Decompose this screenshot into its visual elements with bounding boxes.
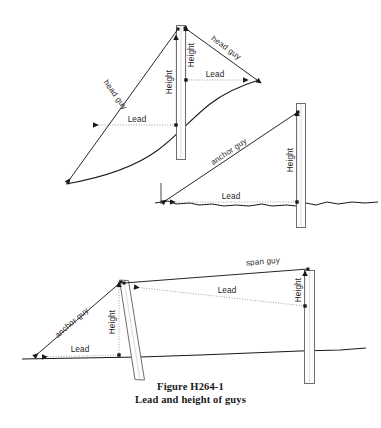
bottom-panel-group: anchor guy span guy Height Height Lead L… bbox=[22, 256, 366, 384]
figure-caption-title: Lead and height of guys bbox=[0, 394, 381, 405]
height-label-bottom-right: Height bbox=[294, 277, 303, 302]
head-guy-left-label: head guy bbox=[102, 78, 129, 111]
pole-bottom-left bbox=[120, 280, 145, 380]
height-label-bottom-left: Height bbox=[108, 309, 117, 334]
ground-line-middle bbox=[155, 201, 378, 206]
figure-container: head guy head guy Height Height Lead Lea… bbox=[0, 0, 381, 428]
anchor-guy-label-bottom: anchor guy bbox=[53, 306, 90, 340]
lead-label-bottom-right: Lead bbox=[218, 286, 237, 295]
lead-left-label-top: Lead bbox=[128, 115, 147, 124]
figure-caption-number: Figure H264-1 bbox=[0, 381, 381, 392]
top-panel-group: head guy head guy Height Height Lead Lea… bbox=[66, 26, 259, 185]
lead-label-middle: Lead bbox=[222, 192, 241, 201]
anchor-guy-label-middle: anchor guy bbox=[209, 136, 249, 167]
height-label-middle: Height bbox=[286, 147, 295, 172]
height-right-label-top: Height bbox=[187, 42, 196, 67]
ground-line-top bbox=[66, 80, 259, 184]
middle-panel-group: anchor guy Height Lead bbox=[155, 104, 378, 228]
height-left-label-top: Height bbox=[165, 69, 174, 94]
guy-wire-diagram: head guy head guy Height Height Lead Lea… bbox=[0, 0, 381, 428]
lead-label-bottom-left: Lead bbox=[71, 345, 90, 354]
pole-top bbox=[177, 26, 186, 160]
span-guy-label-bottom: span guy bbox=[246, 256, 281, 268]
span-guy-line-bottom bbox=[124, 269, 308, 283]
lead-right-label-top: Lead bbox=[206, 70, 225, 79]
pole-bottom-right bbox=[305, 271, 315, 384]
pole-middle bbox=[297, 104, 306, 228]
lead-dim-bottom-left bbox=[42, 355, 119, 357]
